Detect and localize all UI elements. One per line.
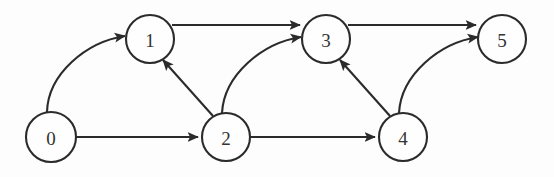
graph-node-4[interactable]: 4 bbox=[379, 113, 427, 161]
graph-node-0[interactable]: 0 bbox=[26, 112, 76, 162]
node-label-4: 4 bbox=[398, 128, 408, 149]
node-label-0: 0 bbox=[46, 128, 56, 149]
graph-edge-0-to-1 bbox=[47, 36, 125, 112]
graph-edge-2-to-1 bbox=[163, 60, 213, 116]
graph-canvas: 012345 bbox=[0, 0, 554, 177]
node-label-5: 5 bbox=[497, 30, 507, 51]
graph-edge-4-to-5 bbox=[399, 37, 478, 113]
node-label-1: 1 bbox=[145, 30, 155, 51]
graph-figure: 012345 bbox=[0, 0, 554, 177]
graph-node-5[interactable]: 5 bbox=[478, 15, 526, 63]
graph-edge-2-to-3 bbox=[222, 37, 301, 113]
graph-node-2[interactable]: 2 bbox=[202, 113, 250, 161]
graph-node-3[interactable]: 3 bbox=[302, 15, 350, 63]
graph-edge-4-to-3 bbox=[340, 60, 390, 116]
graph-node-1[interactable]: 1 bbox=[126, 15, 174, 63]
nodes-layer: 012345 bbox=[26, 15, 526, 162]
node-label-3: 3 bbox=[321, 30, 331, 51]
node-label-2: 2 bbox=[221, 128, 231, 149]
